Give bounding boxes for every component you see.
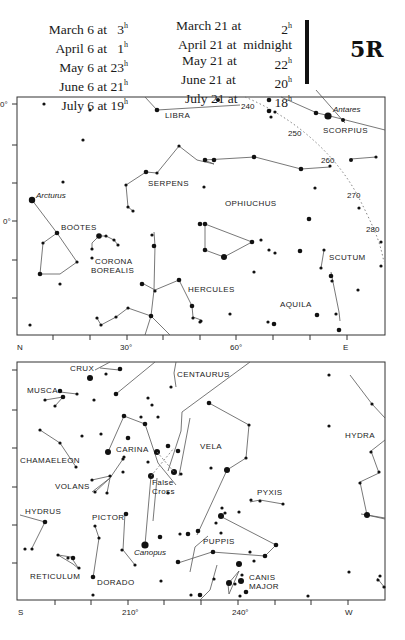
label-dorado: DORADO [97, 578, 135, 587]
label-canopus: Canopus [134, 548, 166, 557]
label-pyxis: PYXIS [257, 488, 283, 497]
left-axis-ticks [12, 370, 17, 563]
label-crux: CRUX [70, 364, 95, 373]
constellation-lines [20, 362, 385, 600]
label-carina: CARINA [116, 445, 149, 454]
label-cross: Cross [152, 487, 175, 496]
axis-label-240: 240° [232, 608, 249, 617]
label-chamaeleon: CHAMAELEON [20, 456, 80, 465]
label-puppis: PUPPIS [203, 537, 235, 546]
label-false: False [152, 478, 174, 487]
label-canis: CANIS [249, 573, 275, 582]
south-star-chart: S 210° 240° W [0, 0, 405, 640]
label-volans: VOLANS [55, 482, 90, 491]
axis-label-south: S [18, 608, 23, 617]
false-cross-dashed [157, 452, 174, 472]
label-hydra: HYDRA [345, 431, 375, 440]
label-reticulum: RETICULUM [30, 572, 80, 581]
label-centaurus: CENTAURUS [177, 370, 230, 379]
bottom-axis-ticks [55, 600, 348, 605]
label-pictor: PICTOR [92, 513, 124, 522]
crux-star [87, 375, 93, 381]
label-vela: VELA [200, 442, 222, 451]
label-musca: MUSCA [27, 386, 58, 395]
label-hydrus: HYDRUS [25, 507, 61, 516]
label-major: MAJOR [249, 582, 279, 591]
axis-label-210: 210° [122, 608, 139, 617]
axis-label-west: W [345, 608, 353, 617]
